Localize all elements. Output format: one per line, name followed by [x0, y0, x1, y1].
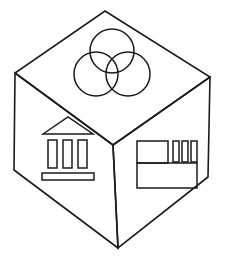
isometric-cube-diagram — [0, 0, 226, 261]
diagram-canvas — [0, 0, 226, 261]
